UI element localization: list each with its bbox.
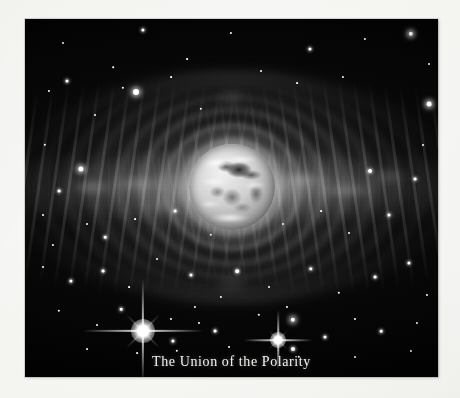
star [120, 308, 123, 311]
star [96, 324, 98, 326]
star [48, 90, 50, 92]
star [42, 266, 44, 268]
star [78, 166, 83, 171]
star [94, 114, 96, 116]
star [368, 169, 372, 173]
starburst-spike [244, 339, 312, 341]
astronomy-plate: The Union of the Polarity [25, 19, 438, 377]
starburst-spike [83, 330, 203, 332]
star [354, 318, 356, 320]
star [258, 314, 260, 316]
star [44, 144, 46, 146]
star [102, 270, 105, 273]
planet-terminator-shading [189, 144, 275, 230]
star [348, 232, 350, 234]
star [291, 347, 295, 351]
star [170, 318, 172, 320]
star [422, 144, 424, 146]
starburst-spike [126, 314, 160, 348]
star [86, 348, 88, 350]
star [42, 214, 44, 216]
star [427, 102, 432, 107]
star [380, 330, 383, 333]
star [416, 322, 418, 324]
star [58, 310, 60, 312]
star [170, 76, 172, 78]
star [235, 269, 239, 273]
star [410, 350, 412, 352]
figure-page: The Union of the Polarity [0, 0, 460, 398]
starburst-spike [268, 330, 287, 349]
star [214, 330, 217, 333]
star [286, 306, 288, 308]
star [308, 47, 311, 50]
star [134, 218, 136, 220]
star [414, 178, 417, 181]
star [228, 346, 230, 348]
star [260, 70, 262, 72]
star [198, 322, 200, 324]
star [104, 236, 107, 239]
star [58, 190, 61, 193]
star [62, 42, 64, 44]
star [230, 32, 232, 34]
star [324, 336, 327, 339]
star [112, 66, 114, 68]
star [190, 274, 193, 277]
star [309, 267, 312, 270]
star [426, 294, 428, 296]
star [428, 63, 430, 65]
star [320, 210, 322, 212]
star [133, 89, 139, 95]
star [66, 80, 69, 83]
star [200, 108, 202, 110]
star [291, 318, 295, 322]
figure-caption: The Union of the Polarity [25, 355, 438, 369]
central-planet [189, 144, 275, 230]
star [194, 306, 196, 308]
star [409, 32, 413, 36]
star [220, 296, 222, 298]
starburst-core [270, 332, 286, 348]
starburst-spike [126, 314, 160, 348]
star [141, 28, 144, 31]
star [136, 352, 138, 354]
planet-sphere [189, 144, 275, 230]
star [52, 244, 54, 246]
star [176, 350, 178, 352]
star [296, 82, 298, 84]
star [268, 286, 270, 288]
star [338, 292, 340, 294]
star [342, 76, 344, 78]
star [128, 286, 130, 288]
star [186, 58, 188, 60]
star [374, 276, 377, 279]
star [388, 214, 391, 217]
star [122, 87, 124, 89]
star [86, 223, 88, 225]
star [171, 339, 174, 342]
star [156, 258, 158, 260]
starburst-core [131, 319, 155, 343]
star [364, 38, 366, 40]
starburst-spike [268, 330, 287, 349]
star [69, 279, 72, 282]
star [407, 261, 410, 264]
